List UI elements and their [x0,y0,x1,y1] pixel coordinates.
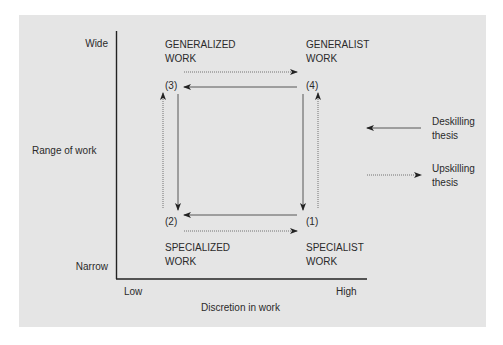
quadrant-specialist-title-1: SPECIALIST [306,241,364,254]
legend-upskilling-line1: Upskilling [432,162,475,175]
quadrant-generalized-number: (3) [165,79,177,92]
y-axis-label: Range of work [32,144,96,157]
quadrant-generalist-number: (4) [306,79,318,92]
y-axis-bottom-label: Narrow [50,260,108,273]
quadrant-specialist-title-2: WORK [306,255,337,268]
y-axis-top-label: Wide [60,37,108,50]
x-axis-left-label: Low [124,285,142,298]
legend-upskilling-line2: thesis [432,176,458,189]
upskilling-arrows [163,72,318,231]
quadrant-generalized-title-2: WORK [165,52,196,65]
quadrant-specialized-title-2: WORK [165,255,196,268]
legend-deskilling-line2: thesis [432,129,458,142]
quadrant-specialized-title-1: SPECIALIZED [165,241,230,254]
quadrant-specialized-number: (2) [165,215,177,228]
x-axis-right-label: High [336,285,357,298]
quadrant-specialist-number: (1) [306,215,318,228]
quadrant-generalist-title-1: GENERALIST [306,38,369,51]
deskilling-arrows [178,87,303,215]
quadrant-generalist-title-2: WORK [306,52,337,65]
diagram-lines [0,0,503,345]
x-axis-label: Discretion in work [201,301,280,314]
legend-deskilling-line1: Deskilling [432,115,475,128]
legend-arrows [367,128,421,175]
quadrant-generalized-title-1: GENERALIZED [165,38,236,51]
